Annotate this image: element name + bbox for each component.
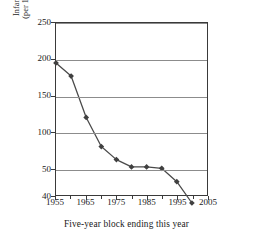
- gridline-200: [56, 60, 207, 61]
- y-tick-label-250: 250: [25, 18, 51, 27]
- y-tick-mark-50: [51, 169, 55, 170]
- x-tick-mark-1980: [132, 196, 133, 199]
- gridline-250: [56, 23, 207, 24]
- x-tick-mark-1960: [70, 196, 71, 199]
- infant-mortality-line-chart: Infant mortality rate (per 1,000 live bi…: [0, 0, 253, 245]
- data-point-1985: [144, 164, 150, 170]
- x-axis-ticks: 195519651975198519952005: [0, 198, 253, 212]
- y-tick-label-50: 50: [25, 165, 51, 174]
- data-point-1980: [129, 164, 135, 170]
- x-tick-mark-1965: [86, 196, 87, 200]
- x-tick-mark-1985: [147, 196, 148, 200]
- x-tick-mark-1975: [116, 196, 117, 200]
- x-axis-title: Five-year block ending this year: [0, 219, 253, 229]
- gridline-150: [56, 97, 207, 98]
- y-tick-mark-200: [51, 59, 55, 60]
- y-tick-label-100: 100: [25, 128, 51, 137]
- x-tick-mark-1995: [177, 196, 178, 200]
- plot-area: [55, 22, 208, 196]
- x-tick-mark-1955: [55, 196, 56, 200]
- gridline-100: [56, 133, 207, 134]
- x-tick-mark-1990: [162, 196, 163, 199]
- gridline-50: [56, 170, 207, 171]
- data-point-1965: [83, 115, 89, 121]
- x-tick-mark-2005: [208, 196, 209, 200]
- y-tick-mark-100: [51, 132, 55, 133]
- y-tick-label-150: 150: [25, 91, 51, 100]
- y-tick-mark-150: [51, 96, 55, 97]
- y-tick-label-200: 200: [25, 54, 51, 63]
- y-tick-mark-250: [51, 22, 55, 23]
- x-tick-mark-1970: [101, 196, 102, 199]
- x-tick-mark-2000: [193, 196, 194, 199]
- y-axis-title-line1: Infant mortality rate: [12, 0, 22, 16]
